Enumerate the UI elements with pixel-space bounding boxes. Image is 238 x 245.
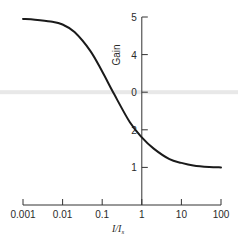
x-tick-label: 10 bbox=[176, 209, 188, 220]
y-tick-label: 4 bbox=[131, 50, 137, 61]
x-tick-label: 0.01 bbox=[53, 209, 73, 220]
x-tick-label: 1 bbox=[139, 209, 145, 220]
x-tick-label: 0.1 bbox=[95, 209, 109, 220]
highlight-band bbox=[0, 90, 238, 94]
axes bbox=[23, 17, 221, 205]
y-tick-label: 1 bbox=[131, 162, 137, 173]
x-axis-title: I/Is bbox=[111, 223, 124, 236]
y-tick-label: 5 bbox=[131, 12, 137, 23]
x-axis-title-subscript: s bbox=[121, 228, 124, 236]
x-ticks: 0.0010.010.1110100 bbox=[10, 199, 229, 220]
x-tick-label: 0.001 bbox=[10, 209, 35, 220]
y-axis-title: Gain bbox=[111, 44, 122, 65]
x-tick-label: 100 bbox=[213, 209, 230, 220]
gain-chart: 0.0010.010.1110100 54021 Gain I/Is bbox=[0, 0, 238, 245]
x-axis-title-main: I/I bbox=[111, 223, 122, 234]
y-tick-label: 0 bbox=[131, 87, 137, 98]
